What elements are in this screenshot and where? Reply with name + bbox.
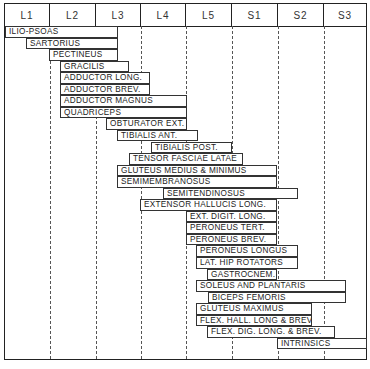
muscle-bar: PECTINEUS bbox=[49, 49, 118, 61]
column-header-s3: S3 bbox=[324, 4, 366, 26]
muscle-bar: EXTENSOR HALLUCIS LONG. bbox=[140, 199, 277, 211]
muscle-bar: SEMITENDINOSUS bbox=[163, 188, 298, 200]
muscle-bar: ADDUCTOR BREV. bbox=[60, 84, 150, 96]
muscle-bar: GLUTEUS MEDIUS & MINIMUS bbox=[117, 165, 277, 177]
muscle-bar: TENSOR FASCIAE LATAE bbox=[129, 153, 243, 165]
column-header-l3: L3 bbox=[96, 4, 141, 26]
muscle-bar: PERONEUS LONGUS bbox=[196, 245, 298, 257]
segmental-innervation-chart: L1 L2 L3 L4 L5 S1 S2 S3 ILIO-PSOASSARTOR… bbox=[4, 3, 367, 360]
muscle-bar: ILIO-PSOAS bbox=[5, 26, 118, 38]
muscle-bar: FLEX. HALL. LONG & BREV. bbox=[196, 315, 312, 327]
column-divider bbox=[50, 26, 51, 359]
muscle-bar: GLUTEUS MAXIMUS bbox=[196, 303, 312, 315]
column-header-s1: S1 bbox=[232, 4, 278, 26]
column-header-l4: L4 bbox=[141, 4, 186, 26]
muscle-bar: ADDUCTOR LONG. bbox=[60, 72, 150, 84]
muscle-bar: ADDUCTOR MAGNUS bbox=[60, 95, 187, 107]
muscle-bar: FLEX. DIG. LONG. & BREV. bbox=[207, 326, 335, 338]
muscle-bar: SARTORIUS bbox=[26, 38, 118, 50]
muscle-bar: SEMIMEMBRANOSUS bbox=[117, 176, 277, 188]
column-header-l1: L1 bbox=[5, 4, 50, 26]
muscle-bar: LAT. HIP ROTATORS bbox=[196, 257, 298, 269]
muscle-bar: INTRINSICS bbox=[277, 338, 367, 350]
muscle-bar: GASTROCNEM. bbox=[207, 269, 277, 281]
muscle-bar: BICEPS FEMORIS bbox=[208, 292, 346, 304]
muscle-bar: GRACILIS bbox=[60, 61, 129, 73]
column-header-s2: S2 bbox=[278, 4, 324, 26]
muscle-bar: OBTURATOR EXT. bbox=[106, 118, 187, 130]
muscle-bar: QUADRICEPS bbox=[60, 107, 187, 119]
column-header-l2: L2 bbox=[50, 4, 96, 26]
column-divider bbox=[324, 26, 325, 359]
column-header-l5: L5 bbox=[186, 4, 232, 26]
muscle-bar: TIBIALIS ANT. bbox=[117, 130, 198, 142]
muscle-bar: SOLEUS AND PLANTARIS bbox=[196, 280, 346, 292]
muscle-bar: PERONEUS BREV. bbox=[186, 234, 277, 246]
muscle-bar: PERONEUS TERT. bbox=[186, 222, 277, 234]
muscle-bar: TIBIALIS POST. bbox=[151, 142, 232, 154]
muscle-bar: EXT. DIGIT. LONG. bbox=[186, 211, 277, 223]
